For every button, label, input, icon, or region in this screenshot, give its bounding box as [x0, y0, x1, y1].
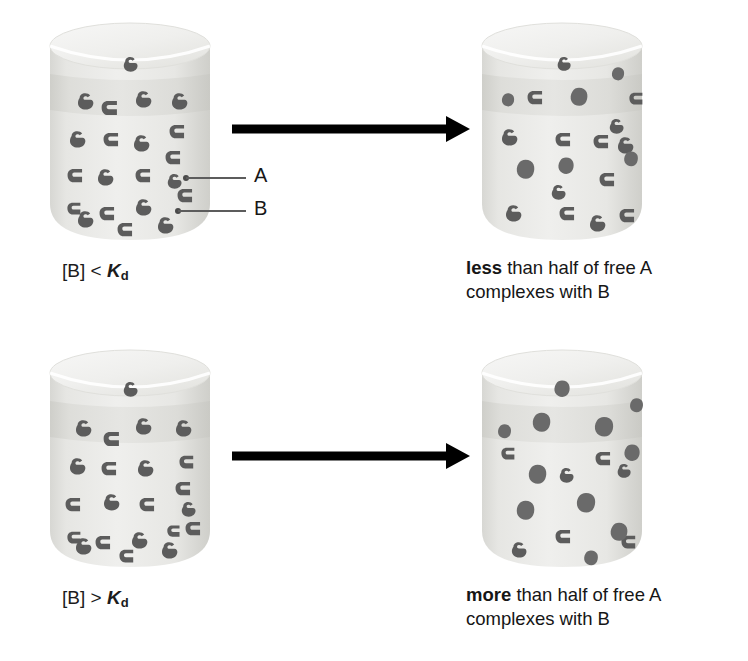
reaction-arrow-low — [232, 108, 470, 150]
kd-subscript: d — [121, 268, 129, 283]
result-line2-high: complexes with B — [466, 608, 610, 629]
result-emphasis-low: less — [466, 257, 502, 278]
callout-a-leader-line — [186, 177, 246, 179]
beaker-low-after — [470, 18, 654, 250]
callout-b-label: B — [254, 196, 268, 220]
kd-constant: K — [107, 260, 121, 281]
operator: > — [91, 587, 102, 608]
kd-constant: K — [107, 587, 121, 608]
callout-b-leader-line — [178, 210, 246, 212]
callout-b: B — [178, 199, 278, 223]
beaker-high-after — [470, 345, 654, 577]
callout-a-label: A — [254, 163, 268, 187]
result-caption-high: more than half of free A complexes with … — [466, 583, 726, 631]
bracket-close: ] — [80, 260, 85, 281]
species-b: B — [67, 260, 80, 281]
condition-label-high: [B] > Kd — [62, 585, 129, 616]
result-rest-low: than half of free A — [502, 257, 652, 278]
row-high-concentration: [B] > Kd more than half of free A comple… — [0, 327, 748, 657]
result-rest-high: than half of free A — [511, 584, 661, 605]
bracket-close: ] — [80, 587, 85, 608]
reaction-arrow-high — [232, 435, 470, 477]
kd-subscript: d — [121, 595, 129, 610]
result-caption-low: less than half of free A complexes with … — [466, 256, 726, 304]
row-low-concentration: A B — [0, 0, 748, 330]
result-line2-low: complexes with B — [466, 281, 610, 302]
binding-equilibrium-figure: A B — [0, 0, 748, 661]
callout-a: A — [186, 166, 278, 190]
result-emphasis-high: more — [466, 584, 511, 605]
condition-label-low: [B] < Kd — [62, 258, 129, 289]
species-b: B — [67, 587, 80, 608]
operator: < — [91, 260, 102, 281]
beaker-high-before — [38, 345, 222, 577]
